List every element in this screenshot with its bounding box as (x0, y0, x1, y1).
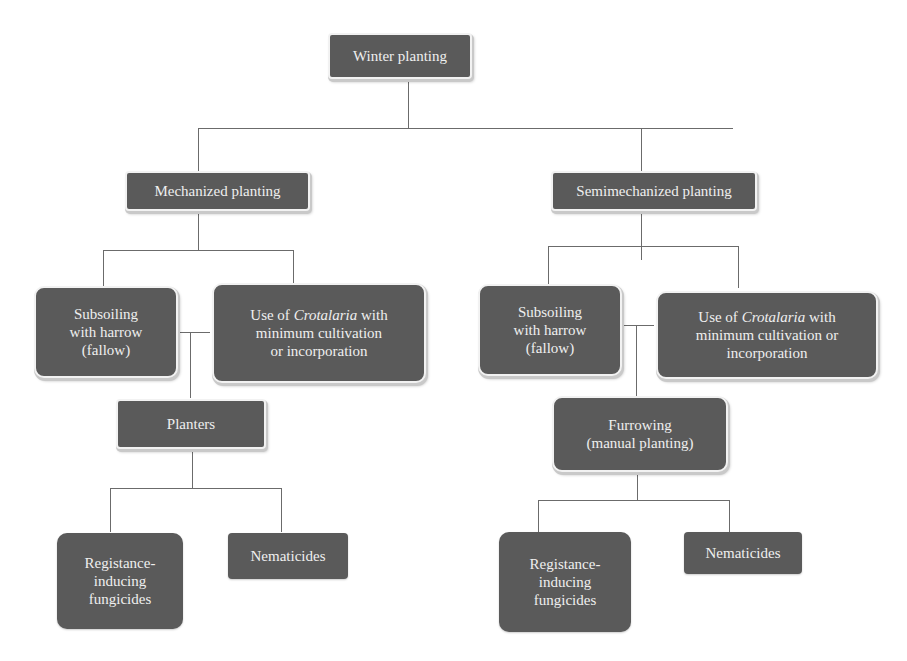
node-label: Furrowing (manual planting) (586, 416, 693, 452)
connector (110, 488, 111, 532)
node-label: Subsoiling with harrow (fallow) (514, 303, 587, 357)
connector (636, 325, 637, 397)
connector (548, 246, 739, 247)
connector (641, 128, 642, 172)
connector (293, 250, 294, 286)
connector (538, 500, 539, 532)
node-label: Use of Crotalaria with minimum cultivati… (250, 306, 387, 360)
node-furrowing: Furrowing (manual planting) (552, 396, 728, 472)
connector (408, 78, 409, 128)
connector (548, 246, 549, 288)
node-label: Mechanized planting (154, 182, 280, 200)
node-semi-fungicides: Registance- inducing fungicides (499, 532, 631, 632)
connector (103, 250, 294, 251)
node-label: Semimechanized planting (576, 182, 731, 200)
connector (620, 325, 654, 326)
connector (198, 128, 199, 172)
connector (192, 448, 193, 488)
node-semi-subsoiling: Subsoiling with harrow (fallow) (478, 284, 622, 376)
node-winter-planting: Winter planting (328, 33, 472, 79)
node-label: Nematicides (706, 544, 781, 562)
node-label: Registance- inducing fungicides (85, 554, 156, 608)
node-label: Subsoiling with harrow (fallow) (70, 305, 143, 359)
node-mech-nematicides: Nematicides (228, 533, 348, 579)
connector (198, 128, 733, 129)
node-label: Nematicides (251, 547, 326, 565)
node-label: Use of Crotalaria with minimum cultivati… (696, 308, 839, 362)
connector (641, 210, 642, 260)
connector (729, 500, 730, 532)
connector (103, 250, 104, 286)
node-semi-crotalaria: Use of Crotalaria with minimum cultivati… (656, 291, 878, 379)
connector (190, 332, 191, 398)
node-semi-nematicides: Nematicides (684, 532, 802, 574)
node-mech-crotalaria: Use of Crotalaria with minimum cultivati… (212, 283, 426, 383)
node-mech-subsoiling: Subsoiling with harrow (fallow) (34, 286, 178, 378)
node-label: Registance- inducing fungicides (530, 555, 601, 609)
node-label: Planters (167, 415, 215, 433)
connector (738, 246, 739, 288)
connector (198, 210, 199, 250)
connector (110, 488, 282, 489)
connector (538, 500, 730, 501)
node-mechanized-planting: Mechanized planting (125, 171, 310, 211)
node-semimechanized-planting: Semimechanized planting (551, 171, 757, 211)
connector (281, 488, 282, 532)
connector (637, 470, 638, 500)
node-label: Winter planting (353, 47, 447, 65)
diagram-canvas: Winter planting Mechanized planting Semi… (0, 0, 907, 661)
node-mech-fungicides: Registance- inducing fungicides (57, 533, 183, 629)
node-planters: Planters (116, 399, 266, 449)
connector (178, 332, 210, 333)
